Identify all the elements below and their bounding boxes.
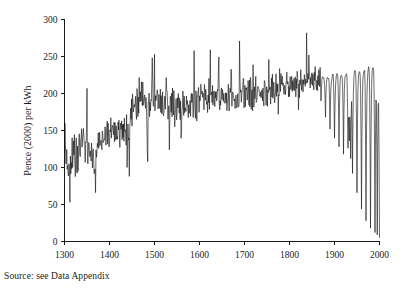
source-note: Source: see Data Appendix bbox=[4, 271, 110, 281]
x-tick-group: 13001400150016001700180019002000 bbox=[55, 242, 389, 260]
y-tick-label: 0 bbox=[53, 237, 58, 247]
y-tick-label: 100 bbox=[43, 163, 58, 173]
x-tick-label: 1300 bbox=[55, 250, 74, 260]
x-axis: 13001400150016001700180019002000 bbox=[55, 242, 389, 260]
y-axis: 050100150200250300 bbox=[43, 15, 64, 247]
y-tick-label: 200 bbox=[43, 89, 58, 99]
plot-area bbox=[65, 33, 380, 238]
y-axis-title: Pence (2000) per kWh bbox=[22, 85, 34, 175]
y-tick-group: 050100150200250300 bbox=[43, 15, 64, 247]
x-tick-label: 1500 bbox=[145, 250, 164, 260]
y-tick-label: 300 bbox=[43, 15, 58, 25]
x-tick-label: 1700 bbox=[235, 250, 254, 260]
energy-price-line-chart: 050100150200250300 130014001500160017001… bbox=[0, 0, 409, 291]
y-tick-label: 50 bbox=[48, 200, 58, 210]
y-tick-label: 250 bbox=[43, 52, 58, 62]
series-line-real-price bbox=[65, 33, 380, 238]
x-tick-label: 2000 bbox=[370, 250, 389, 260]
x-tick-label: 1400 bbox=[100, 250, 119, 260]
x-tick-label: 1800 bbox=[280, 250, 299, 260]
figure-container: 050100150200250300 130014001500160017001… bbox=[0, 0, 409, 291]
x-tick-label: 1600 bbox=[190, 250, 209, 260]
y-tick-label: 150 bbox=[43, 126, 58, 136]
x-tick-label: 1900 bbox=[325, 250, 344, 260]
